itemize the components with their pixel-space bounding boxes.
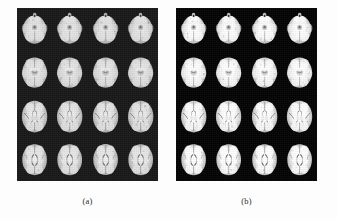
mri-slice	[176, 51, 211, 94]
mri-slice	[211, 51, 246, 94]
slice-grid-a	[17, 8, 158, 181]
mri-slice	[88, 138, 123, 181]
mri-slice	[211, 138, 246, 181]
mri-slice	[123, 95, 158, 138]
caption-panel-a: (a)	[17, 196, 158, 206]
mri-slice	[52, 138, 87, 181]
mri-slice	[247, 95, 282, 138]
mri-slice	[211, 8, 246, 51]
mri-slice	[123, 8, 158, 51]
mri-slice	[17, 8, 52, 51]
mri-slice	[176, 138, 211, 181]
mri-slice	[176, 95, 211, 138]
mri-slice	[247, 138, 282, 181]
mri-panel-b[interactable]	[176, 8, 317, 181]
caption-panel-b: (b)	[176, 196, 317, 206]
mri-panel-a[interactable]	[17, 8, 158, 181]
mri-slice	[247, 8, 282, 51]
mri-slice	[211, 95, 246, 138]
mri-slice	[282, 138, 317, 181]
mri-slice	[88, 51, 123, 94]
panel-a-wrapper	[17, 8, 158, 181]
mri-slice	[123, 138, 158, 181]
mri-slice	[17, 95, 52, 138]
mri-slice	[282, 95, 317, 138]
mri-slice	[123, 51, 158, 94]
mri-slice	[88, 95, 123, 138]
mri-slice	[247, 51, 282, 94]
mri-slice	[88, 8, 123, 51]
panel-b-wrapper	[176, 8, 317, 181]
mri-slice	[282, 8, 317, 51]
mri-slice	[52, 95, 87, 138]
mri-slice	[52, 8, 87, 51]
mri-slice	[176, 8, 211, 51]
mri-slice	[52, 51, 87, 94]
figure-container: (a)	[0, 0, 337, 221]
mri-slice	[17, 138, 52, 181]
mri-slice	[17, 51, 52, 94]
mri-slice	[282, 51, 317, 94]
slice-grid-b	[176, 8, 317, 181]
